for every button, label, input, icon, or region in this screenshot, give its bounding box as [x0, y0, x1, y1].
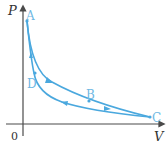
pv-diagram: P V 0 A B C D — [0, 0, 167, 147]
curve-cda — [27, 21, 150, 117]
point-a-label: A — [25, 9, 35, 23]
point-d-label: D — [27, 77, 37, 91]
y-axis-label: P — [7, 3, 17, 18]
point-d — [33, 71, 36, 74]
point-c-label: C — [152, 111, 161, 125]
point-b-label: B — [86, 88, 95, 102]
curve-abc — [27, 21, 150, 117]
x-axis-label: V — [154, 129, 165, 144]
origin-label: 0 — [11, 130, 18, 143]
